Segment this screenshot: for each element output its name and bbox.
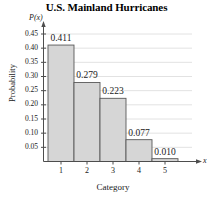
bar (48, 45, 74, 161)
x-axis-arrowhead (196, 159, 202, 163)
x-tick-label: 2 (77, 166, 97, 175)
y-tick-label: 0.05 (12, 143, 38, 151)
y-tick-label: 0.15 (12, 115, 38, 123)
hurricane-probability-chart: U.S. Mainland Hurricanes P(x) Probabilit… (0, 0, 213, 199)
y-tick-label: 0.30 (12, 72, 38, 80)
y-tick-label: 0.45 (12, 30, 38, 38)
bar-value-label: 0.279 (67, 70, 107, 80)
y-tick-label: 0.35 (12, 58, 38, 66)
bar-value-label: 0.010 (145, 147, 185, 157)
y-tick-label: 0.40 (12, 44, 38, 52)
bar-value-label: 0.077 (119, 128, 159, 138)
x-tick-label: 1 (51, 166, 71, 175)
bar-value-label: 0.411 (41, 33, 81, 43)
y-tick-label: 0.10 (12, 129, 38, 137)
y-tick-label: 0.20 (12, 100, 38, 108)
x-tick-label: 4 (129, 166, 149, 175)
x-tick-label: 5 (155, 166, 175, 175)
y-axis-arrowhead (41, 21, 45, 27)
y-tick-label: 0.25 (12, 86, 38, 94)
bar-value-label: 0.223 (93, 86, 133, 96)
x-tick-label: 3 (103, 166, 123, 175)
